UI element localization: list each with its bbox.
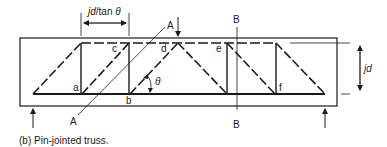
angle-arc-arrowhead <box>148 88 153 93</box>
diagonal-strut-6 <box>276 43 325 94</box>
panel-width-label: jd/tan θ <box>86 6 121 17</box>
figure-caption: (b) Pin-jointed truss. <box>19 135 108 146</box>
angle-theta-label: θ <box>155 76 161 87</box>
node-label-d: d <box>161 43 167 54</box>
node-label-b: b <box>126 95 132 106</box>
section-b-top-label: B <box>233 14 240 25</box>
diagonal-strut-2 <box>82 43 129 94</box>
truss-diagram: A A B B jd/tan θ jd θ a b c d e f (b) Pi… <box>0 0 387 147</box>
section-a-top-label: A <box>167 20 174 31</box>
node-label-c: c <box>112 43 117 54</box>
beam-outline <box>20 38 337 106</box>
section-b-bottom-label: B <box>233 119 240 130</box>
node-label-a: a <box>73 82 79 93</box>
diagonal-strut-5 <box>227 43 275 94</box>
diagonal-strut-3 <box>130 43 178 94</box>
node-label-e: e <box>216 43 222 54</box>
section-a-bottom-label: A <box>70 116 77 127</box>
node-label-f: f <box>279 82 282 93</box>
depth-label: jd <box>362 63 372 74</box>
